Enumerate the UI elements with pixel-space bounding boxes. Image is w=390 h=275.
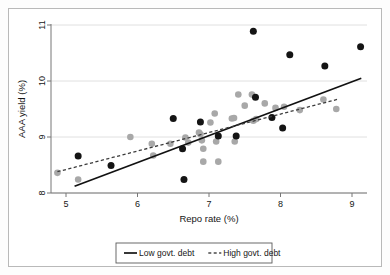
y-tick-label-11: 11 [37,20,47,29]
data-point [250,28,257,35]
data-point [215,158,222,165]
legend[interactable]: Low govt. debtHigh govt. debt [116,243,281,263]
data-point [233,132,240,139]
gridlines [51,25,367,193]
legend-label-low-govt-debt[interactable]: Low govt. debt [139,248,195,258]
x-axis-label: Repo rate (%) [179,213,238,224]
scatter-chart: 56789891011 Repo rate (%) AAA yield (%) … [0,0,390,275]
data-point [75,176,82,183]
y-tick-label-10: 10 [37,76,47,86]
data-point [200,158,207,165]
data-point [108,162,115,169]
axis-lines [51,24,367,193]
fit-line-low-govt-debt [75,78,362,186]
data-point [200,145,207,152]
data-point [252,94,259,101]
data-point [231,115,238,122]
data-point [207,119,214,126]
data-point [170,115,177,122]
data-point [127,134,134,141]
legend-label-high-govt-debt[interactable]: High govt. debt [223,248,281,258]
axis-tick-labels: 56789891011 [37,20,354,209]
regression-lines [57,78,361,186]
data-point [235,91,242,98]
data-point [279,125,286,132]
y-tick-label-9: 9 [37,134,47,139]
data-point [211,110,218,117]
data-point [180,176,187,183]
data-point [197,118,204,125]
data-point [75,153,82,160]
data-point [286,51,293,58]
y-tick-label-8: 8 [37,190,47,195]
x-tick-label-5: 5 [63,199,68,209]
data-point [321,62,328,69]
axis-titles: Repo rate (%) AAA yield (%) [16,80,239,224]
data-point [149,140,156,147]
axis-ticks [47,25,352,197]
data-point [333,106,340,113]
y-axis-label: AAA yield (%) [16,80,27,138]
x-tick-label-7: 7 [206,199,211,209]
data-point [357,43,364,50]
figure-container: 56789891011 Repo rate (%) AAA yield (%) … [0,0,390,275]
x-tick-label-9: 9 [349,199,354,209]
data-point [261,100,268,107]
data-point [241,102,248,109]
x-tick-label-6: 6 [135,199,140,209]
x-tick-label-8: 8 [278,199,283,209]
